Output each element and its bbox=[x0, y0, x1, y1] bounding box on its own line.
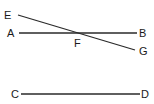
geometry-diagram: E A B F G C D bbox=[0, 0, 154, 104]
label-c: C bbox=[11, 88, 19, 100]
label-f: F bbox=[74, 37, 81, 49]
label-a: A bbox=[7, 27, 15, 39]
label-g: G bbox=[139, 45, 148, 57]
label-b: B bbox=[139, 27, 146, 39]
label-d: D bbox=[141, 88, 149, 100]
label-e: E bbox=[4, 9, 11, 21]
